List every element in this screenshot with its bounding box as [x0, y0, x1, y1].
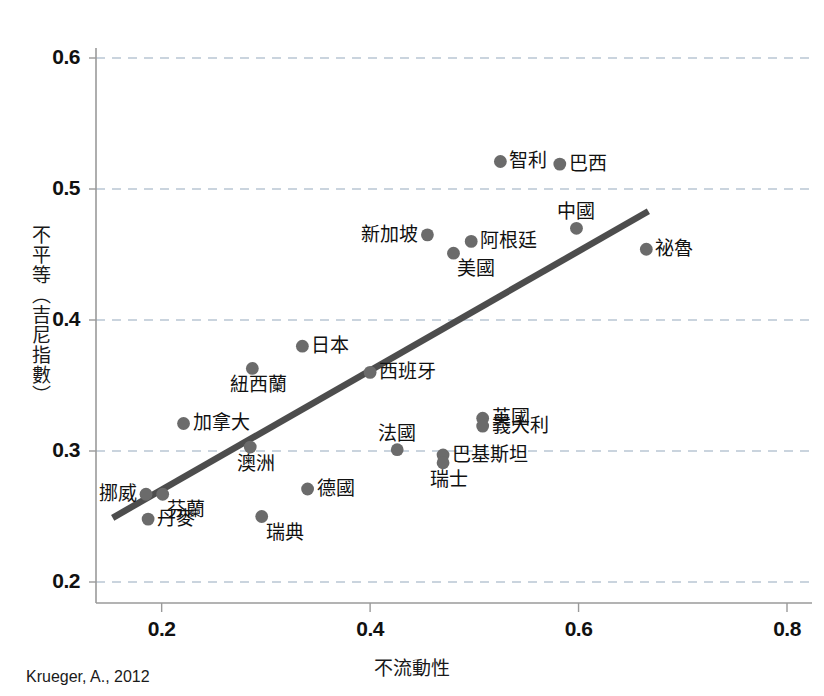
x-tick-label: 0.4: [330, 617, 410, 641]
y-tick-label: 0.6: [10, 45, 80, 69]
data-point: [476, 420, 489, 433]
data-point-label: 挪威: [99, 484, 137, 504]
data-point: [364, 366, 377, 379]
plot-canvas: [0, 0, 824, 696]
data-point: [246, 362, 259, 375]
scatter-chart-figure: 0.20.30.40.50.60.20.40.60.8 智利巴西中國新加坡阿根廷…: [0, 0, 824, 696]
data-point: [421, 228, 434, 241]
y-tick-label: 0.3: [10, 438, 80, 462]
y-tick-label: 0.5: [10, 176, 80, 200]
y-axis-title: 不平等（吉尼指數）: [30, 225, 49, 405]
data-point-label: 阿根廷: [480, 231, 537, 251]
data-point: [296, 340, 309, 353]
data-point-label: 智利: [509, 151, 547, 171]
data-point: [553, 158, 566, 171]
y-tick-marks-group: [89, 58, 96, 582]
data-point-label: 瑞典: [266, 523, 304, 543]
data-point-label: 澳洲: [237, 454, 275, 474]
data-point-label: 西班牙: [379, 362, 436, 382]
x-tick-label: 0.6: [539, 617, 619, 641]
data-point: [244, 441, 257, 454]
data-point-label: 中國: [557, 202, 595, 222]
data-point: [465, 235, 478, 248]
data-point-label: 新加坡: [361, 225, 418, 245]
data-point: [301, 483, 314, 496]
data-point-label: 祕魯: [655, 239, 693, 259]
data-point: [255, 510, 268, 523]
x-tick-marks-group: [162, 603, 787, 612]
y-tick-label: 0.2: [10, 569, 80, 593]
data-point: [494, 155, 507, 168]
data-point-label: 巴基斯坦: [452, 445, 528, 465]
x-tick-label: 0.2: [122, 617, 202, 641]
data-point: [570, 222, 583, 235]
data-point: [142, 513, 155, 526]
data-point: [391, 443, 404, 456]
data-point-label: 法國: [378, 424, 416, 444]
data-point-label: 丹麥: [157, 509, 195, 529]
data-point-label: 義大利: [492, 416, 549, 436]
data-point-label: 紐西蘭: [230, 375, 287, 395]
data-point-label: 瑞士: [430, 470, 468, 490]
data-point-label: 巴西: [569, 154, 607, 174]
data-point-label: 加拿大: [193, 413, 250, 433]
data-point: [177, 417, 190, 430]
data-point-label: 美國: [457, 259, 495, 279]
data-point-label: 德國: [317, 479, 355, 499]
data-point-label: 日本: [311, 336, 349, 356]
data-point: [640, 243, 653, 256]
data-point: [437, 456, 450, 469]
x-tick-label: 0.8: [747, 617, 824, 641]
data-point: [140, 488, 153, 501]
source-citation: Krueger, A., 2012: [26, 668, 150, 686]
